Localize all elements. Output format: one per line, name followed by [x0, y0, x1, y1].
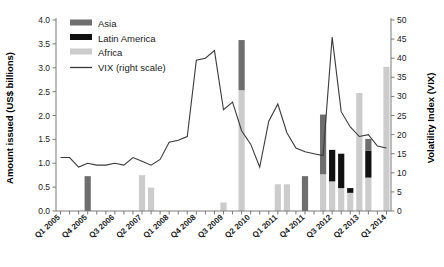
y-axis-right-ticklabels: 05101520253035404550: [397, 15, 407, 216]
y-axis-left-title: Amount issued (US$ billions): [4, 52, 15, 184]
bar-segment: [320, 174, 326, 211]
y-axis-right-title: Volatility Index (VIX): [425, 73, 436, 164]
y-axis-right-ticklabel: 35: [397, 72, 407, 82]
x-axis-ticklabel: Q2 2013: [332, 212, 361, 240]
x-axis-ticklabel: Q1 2011: [251, 212, 280, 239]
bar-segment: [347, 193, 353, 211]
legend-label: Latin America: [98, 33, 156, 44]
x-axis-ticklabel: Q4 2008: [169, 212, 198, 240]
x-axis-ticklabel: Q3 2009: [196, 212, 225, 240]
x-axis-ticklabel: Q2 2007: [115, 212, 144, 240]
bar-segment: [365, 139, 371, 151]
legend-label: VIX (right scale): [98, 62, 166, 73]
chart-legend: AsiaLatin AmericaAfricaVIX (right scale): [70, 18, 166, 73]
bar-segment: [284, 184, 290, 211]
bar-segment: [275, 184, 281, 211]
y-axis-right-ticklabel: 50: [397, 15, 407, 25]
bar-segment: [338, 154, 344, 188]
x-axis-ticklabel: Q2 2010: [223, 212, 252, 240]
y-axis-right-ticklabel: 0: [397, 206, 402, 216]
y-axis-right-ticklabel: 10: [397, 168, 407, 178]
y-axis-right-ticklabel: 30: [397, 91, 407, 101]
legend-color-swatch: [70, 20, 92, 26]
y-axis-left-ticklabels: 0.00.51.01.52.02.53.03.54.0: [38, 15, 50, 216]
chart-container: 0.00.51.01.52.02.53.03.54.0 051015202530…: [0, 0, 444, 267]
bar-segment: [302, 176, 308, 211]
legend-label: Africa: [98, 47, 123, 58]
y-axis-right-ticklabel: 40: [397, 53, 407, 63]
bar-segment: [85, 176, 91, 211]
bar-segment: [365, 151, 371, 178]
y-axis-right-ticklabel: 15: [397, 149, 407, 159]
bar-segment: [356, 93, 362, 211]
y-axis-left-ticklabel: 0.5: [38, 182, 50, 192]
y-axis-right-ticklabel: 25: [397, 111, 407, 121]
y-axis-right-ticklabel: 20: [397, 130, 407, 140]
x-axis-ticklabel: Q3 2012: [305, 212, 334, 240]
bar-segment: [365, 178, 371, 211]
legend-color-swatch: [70, 34, 92, 40]
y-axis-left-ticklabel: 2.5: [38, 87, 50, 97]
bar-segment: [239, 90, 245, 211]
x-axis-ticklabel: Q4 2005: [60, 212, 89, 240]
x-axis-ticklabel: Q1 2005: [33, 212, 62, 240]
x-axis-ticklabel: Q1 2008: [142, 212, 171, 240]
x-axis-ticklabel: Q3 2006: [87, 212, 116, 240]
y-axis-right-ticklabel: 45: [397, 34, 407, 44]
bar-segment: [329, 181, 335, 211]
x-axis-ticklabel: Q1 2014: [359, 212, 388, 240]
bar-segment: [139, 175, 145, 211]
y-axis-left-ticklabel: 4.0: [38, 15, 50, 25]
bar-segment: [338, 188, 344, 211]
bar-segment: [347, 188, 353, 193]
y-axis-left-ticklabel: 0.0: [38, 206, 50, 216]
legend-color-swatch: [70, 49, 92, 55]
y-axis-left-ticklabel: 2.0: [38, 111, 50, 121]
bar-segment: [148, 188, 154, 211]
bar-segment: [239, 40, 245, 90]
x-axis-ticklabel: Q4 2011: [278, 212, 307, 239]
y-axis-left-ticklabel: 3.0: [38, 63, 50, 73]
bar-segment: [220, 202, 226, 211]
bar-line-combo-chart: 0.00.51.01.52.02.53.03.54.0 051015202530…: [0, 0, 444, 267]
x-axis-ticklabels: Q1 2005Q4 2005Q3 2006Q2 2007Q1 2008Q4 20…: [33, 212, 388, 240]
y-axis-left-ticklabel: 1.0: [38, 158, 50, 168]
y-axis-right-ticklabel: 5: [397, 187, 402, 197]
bar-segment: [383, 67, 389, 211]
y-axis-left-ticklabel: 1.5: [38, 134, 50, 144]
y-axis-left-ticklabel: 3.5: [38, 39, 50, 49]
legend-label: Asia: [98, 18, 117, 29]
bar-segment: [329, 150, 335, 182]
